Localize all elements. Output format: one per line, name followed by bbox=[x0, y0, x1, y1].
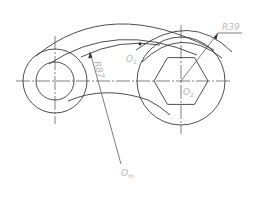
o1-point-marker bbox=[139, 43, 142, 46]
r39-leader-line bbox=[181, 33, 218, 81]
technical-drawing: R39 R87 O 1 O 2 O m bbox=[0, 0, 259, 201]
label-o1-sub: 1 bbox=[133, 58, 137, 65]
label-r39: R39 bbox=[222, 22, 240, 32]
lower-connecting-arc bbox=[68, 93, 170, 115]
label-om-sub: m bbox=[128, 172, 134, 179]
label-o2-sub: 2 bbox=[190, 91, 194, 98]
r39-dimension bbox=[181, 33, 242, 81]
r39-arc-inner bbox=[142, 42, 222, 62]
label-r87: R87 bbox=[92, 60, 106, 80]
upper-inner-arc bbox=[81, 43, 160, 57]
